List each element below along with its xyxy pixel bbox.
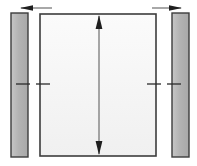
right-side-member-shape <box>172 13 189 157</box>
center-panel <box>40 14 156 156</box>
left-side-member-shape <box>11 13 28 157</box>
left-side-member <box>11 13 28 157</box>
diagram-canvas <box>0 0 197 166</box>
center-panel-shape <box>40 14 156 156</box>
right-side-member <box>172 13 189 157</box>
technical-diagram <box>0 0 197 166</box>
